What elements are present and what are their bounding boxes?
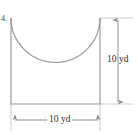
problem-number-mark: 4. — [1, 15, 7, 23]
vertical-dimension-label: 10 yd — [107, 54, 128, 65]
semicircular-arc — [11, 18, 100, 63]
region-outline — [11, 18, 100, 104]
horizontal-dimension-label: 10 yd — [47, 114, 72, 125]
geometry-figure: 4. 10 yd 10 yd — [0, 0, 138, 135]
